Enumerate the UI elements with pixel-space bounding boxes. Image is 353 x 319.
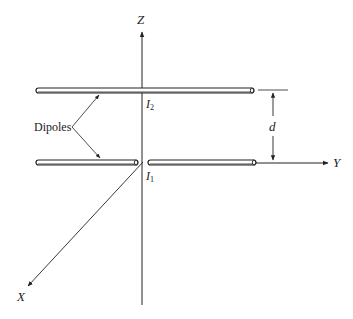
upper-dipole bbox=[36, 88, 254, 93]
callout-arrow-lower bbox=[72, 127, 100, 158]
callout-arrow-upper bbox=[72, 95, 99, 127]
current-label-i1: I1 bbox=[145, 169, 154, 184]
lower-dipole bbox=[36, 160, 256, 165]
dipole-array-diagram: Z I2 I1 Y X d Dipoles bbox=[0, 0, 353, 319]
separation-label: d bbox=[269, 119, 276, 134]
lower-dipole-left-arm bbox=[36, 160, 138, 165]
lower-dipole-right-arm bbox=[148, 160, 256, 165]
dipoles-label: Dipoles bbox=[34, 120, 72, 134]
y-axis-label: Y bbox=[333, 155, 342, 170]
current-label-i2: I2 bbox=[145, 97, 154, 112]
z-axis-label: Z bbox=[137, 12, 145, 27]
x-axis bbox=[28, 162, 143, 286]
x-axis-label: X bbox=[16, 289, 26, 304]
